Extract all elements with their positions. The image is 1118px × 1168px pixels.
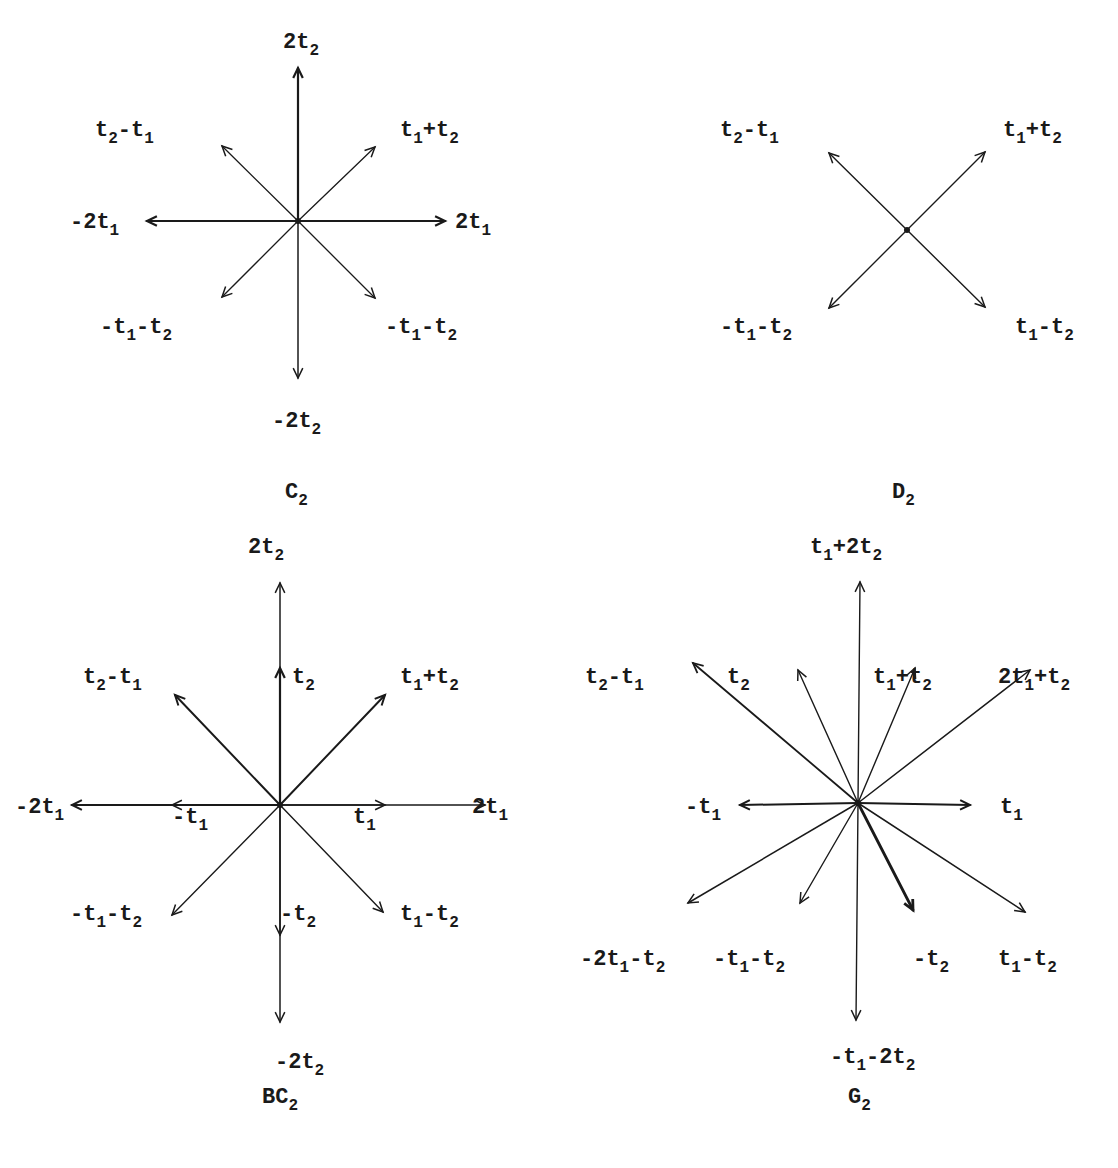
root-vector-arrow [280,695,385,805]
root-label: -2t2​ [275,1050,324,1080]
root-label: t1​-t2​ [998,947,1057,977]
origin-dot [295,218,301,224]
root-vector-arrow [851,803,861,1020]
root-label: -t2​ [913,947,949,977]
root-label: -t1​-t2​ [385,315,457,345]
diagram-g2: t1​+2t2​t2​-t1​t2​t1​+t2​2t1​+t2​-t1​t1​… [580,535,1070,1115]
root-vector-arrow [293,68,303,221]
root-vector-arrow [829,230,907,308]
diagram-caption: G2 [848,1085,871,1115]
root-label: -2t1​ [70,210,119,240]
root-label: -t1​ [172,805,208,835]
root-label: t2​-t1​ [720,118,779,148]
origin-dot [277,802,283,808]
root-label: t1​+t2​ [400,118,459,148]
root-label: t1​-t2​ [1015,315,1074,345]
root-label: -2t1​-t2​ [580,947,665,977]
root-vector-arrow [298,216,445,226]
diagram-caption: D2 [892,480,915,510]
root-label: t1​+t2​ [1003,118,1062,148]
root-label: 2t1​ [455,210,491,240]
root-label: t1​-t2​ [400,902,459,932]
root-label: t2​-t1​ [585,665,644,695]
origin-dot [855,800,861,806]
root-label: 2t1​ [472,795,508,825]
root-vector-arrow [298,221,375,298]
root-label: 2t1​+t2​ [998,665,1070,695]
root-label: -t1​-2t2​ [830,1045,915,1075]
root-label: t2​-t1​ [83,665,142,695]
root-label: -t1​ [685,795,721,825]
diagram-d2: t2​-t1​t1​+t2​-t1​-t2​t1​-t2​D2 [720,118,1074,510]
root-label: 2t2​ [248,535,284,565]
root-vector-arrow [298,147,375,221]
root-vector-arrow [855,582,865,803]
root-label: t1​+t2​ [873,665,932,695]
root-label: t1​+t2​ [400,665,459,695]
root-label: -t1​-t2​ [713,947,785,977]
root-vector-arrow [222,221,298,297]
root-label: -t1​-t2​ [720,315,792,345]
root-label: -t1​-t2​ [100,315,172,345]
root-label: t1​+2t2​ [810,535,882,565]
root-label: 2t2​ [283,30,319,60]
root-vector-arrow [693,663,858,803]
root-systems-figure: 2t2​t2​-t1​t1​+t2​-2t1​2t1​-t1​-t2​-t1​-… [0,0,1118,1168]
root-label: t2​-t1​ [95,118,154,148]
root-vector-arrow [280,800,385,810]
root-vector-arrow [858,800,970,810]
root-label: -t1​-t2​ [70,902,142,932]
root-vector-arrow [147,216,298,226]
root-vector-arrow [907,152,985,230]
origin-dot [904,227,910,233]
root-vector-arrow [907,230,985,307]
root-label: -2t2​ [272,409,321,439]
root-vector-arrow [175,695,280,805]
root-vector-arrow [275,668,285,805]
root-vector-arrow [293,221,303,378]
root-label: t2​ [727,665,750,695]
root-vector-arrow [800,803,858,903]
diagram-caption: BC2 [262,1085,298,1115]
root-vector-arrow [222,146,298,221]
diagram-caption: C2 [285,480,308,510]
root-vector-arrow [740,800,858,810]
root-label: -t2​ [280,902,316,932]
root-label: t1​ [353,805,376,835]
diagram-bc2: 2t2​t2​t2​-t1​t1​+t2​-2t1​-t1​t1​2t1​-t1… [15,535,508,1115]
root-label: t1​ [1000,795,1023,825]
diagram-c2: 2t2​t2​-t1​t1​+t2​-2t1​2t1​-t1​-t2​-t1​-… [70,30,491,510]
root-label: t2​ [292,665,315,695]
root-vector-arrow [858,803,913,910]
root-label: -2t1​ [15,795,64,825]
root-vector-arrow [798,670,858,803]
root-vector-arrow [829,153,907,230]
